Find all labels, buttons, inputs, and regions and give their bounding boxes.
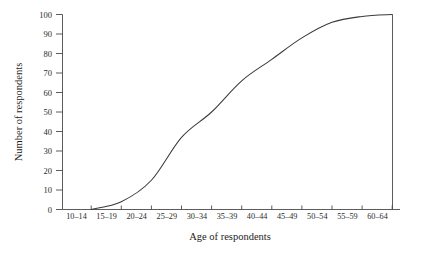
x-axis-title: Age of respondents — [189, 231, 271, 242]
y-axis-ticks: 0 10 20 30 40 50 60 70 80 90 100 — [39, 10, 62, 215]
y-tick-label-10: 10 — [44, 185, 53, 195]
y-axis-title: Number of respondents — [13, 63, 24, 162]
x-tick-label-6: 40–44 — [247, 212, 267, 221]
x-tick-label-10: 60–64 — [367, 212, 387, 221]
y-tick-label-100: 100 — [39, 10, 52, 20]
y-tick-label-80: 80 — [44, 49, 53, 59]
x-tick-label-1: 15–19 — [96, 212, 116, 221]
x-tick-label-3: 25–29 — [157, 212, 177, 221]
x-tick-label-4: 30–34 — [187, 212, 207, 221]
x-axis-tick-labels: 10–14 15–19 20–24 25–29 30–34 35–39 40–4… — [66, 212, 387, 221]
x-tick-label-0: 10–14 — [66, 212, 86, 221]
data-series-line — [91, 15, 392, 210]
x-tick-label-2: 20–24 — [126, 212, 146, 221]
y-tick-label-20: 20 — [44, 166, 53, 176]
chart-canvas: 0 10 20 30 40 50 60 70 80 90 100 — [0, 0, 421, 255]
y-tick-label-70: 70 — [44, 68, 53, 78]
y-tick-label-90: 90 — [44, 29, 53, 39]
y-tick-label-40: 40 — [44, 127, 53, 137]
y-tick-label-60: 60 — [44, 88, 53, 98]
cumulative-frequency-chart: 0 10 20 30 40 50 60 70 80 90 100 — [0, 0, 421, 255]
x-axis-ticks — [91, 206, 392, 210]
x-tick-label-7: 45–49 — [277, 212, 297, 221]
y-tick-label-0: 0 — [48, 205, 52, 215]
x-tick-label-9: 55–59 — [337, 212, 357, 221]
x-tick-label-5: 35–39 — [217, 212, 237, 221]
y-tick-label-30: 30 — [44, 146, 53, 156]
x-tick-label-8: 50–54 — [307, 212, 327, 221]
y-tick-label-50: 50 — [44, 107, 53, 117]
